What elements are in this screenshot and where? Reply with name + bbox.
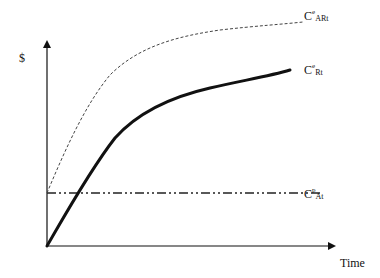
label-c-e-art: CeARt [304,9,328,23]
x-axis-label: Time [340,257,365,269]
curve-c-e-art [47,22,303,193]
label-c-e-rt-sub: Rt [315,68,323,77]
label-c-e-art-base: C [304,9,312,23]
label-c-e-rt: CeRt [304,63,323,77]
diagram-canvas [0,0,380,278]
label-c-p-at: CpAt [304,187,324,201]
curve-c-e-rt [47,70,290,246]
label-c-p-at-base: C [304,187,312,201]
label-c-e-rt-base: C [304,63,312,77]
label-c-e-art-sub: ARt [315,14,328,23]
y-axis-label: $ [19,52,25,64]
label-c-p-at-sub: At [316,192,324,201]
